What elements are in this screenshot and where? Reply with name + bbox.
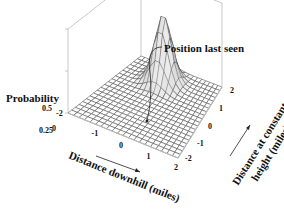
x-tick-0: 0 (119, 141, 123, 150)
z-tick-0.25: 0.25 (39, 126, 53, 135)
x-tick-2: 2 (174, 163, 178, 172)
x-axis-label: Distance downhill (miles) (67, 149, 182, 206)
x-tick--1: -1 (92, 129, 99, 138)
y-arrow-head (246, 125, 250, 130)
z-tick-0: 0 (52, 124, 56, 133)
y-tick-0: 0 (208, 122, 212, 131)
x-arrow-head (135, 168, 140, 172)
y-tick-2: 2 (230, 86, 234, 95)
y-tick--2: -2 (185, 154, 192, 163)
y-tick--1: -1 (197, 139, 204, 148)
z-axis-label: Probability (6, 92, 59, 104)
x-tick--2: -2 (56, 109, 63, 118)
x-tick-1: 1 (147, 152, 151, 161)
surface-plot: Probability 0.5 0.25 0 Position last see… (0, 0, 284, 209)
annotation-label: Position last seen (164, 42, 244, 54)
z-tick-0.5: 0.5 (42, 104, 52, 113)
y-tick-1: 1 (219, 104, 223, 113)
